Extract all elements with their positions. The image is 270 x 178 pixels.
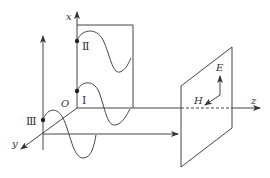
wave-3-dot: [41, 118, 45, 122]
wavefront-plane: [181, 47, 232, 167]
h-field-label: H: [193, 95, 203, 106]
x-axis-label: x: [66, 11, 72, 22]
h-field-arrow: [205, 95, 220, 105]
e-field-label: E: [215, 62, 224, 73]
origin-label: O: [61, 98, 69, 109]
wave-1-label: Ⅰ: [82, 94, 86, 107]
z-axis-label: z: [250, 95, 257, 106]
wave-2-label: Ⅱ: [82, 40, 89, 53]
y-axis-label: y: [11, 138, 18, 149]
wave-1-dot: [75, 89, 79, 93]
em-wave-diagram: x y z O Ⅱ Ⅰ Ⅲ E H: [0, 0, 270, 178]
wave-2-dot: [75, 39, 79, 43]
wave-3-label: Ⅲ: [26, 115, 37, 128]
